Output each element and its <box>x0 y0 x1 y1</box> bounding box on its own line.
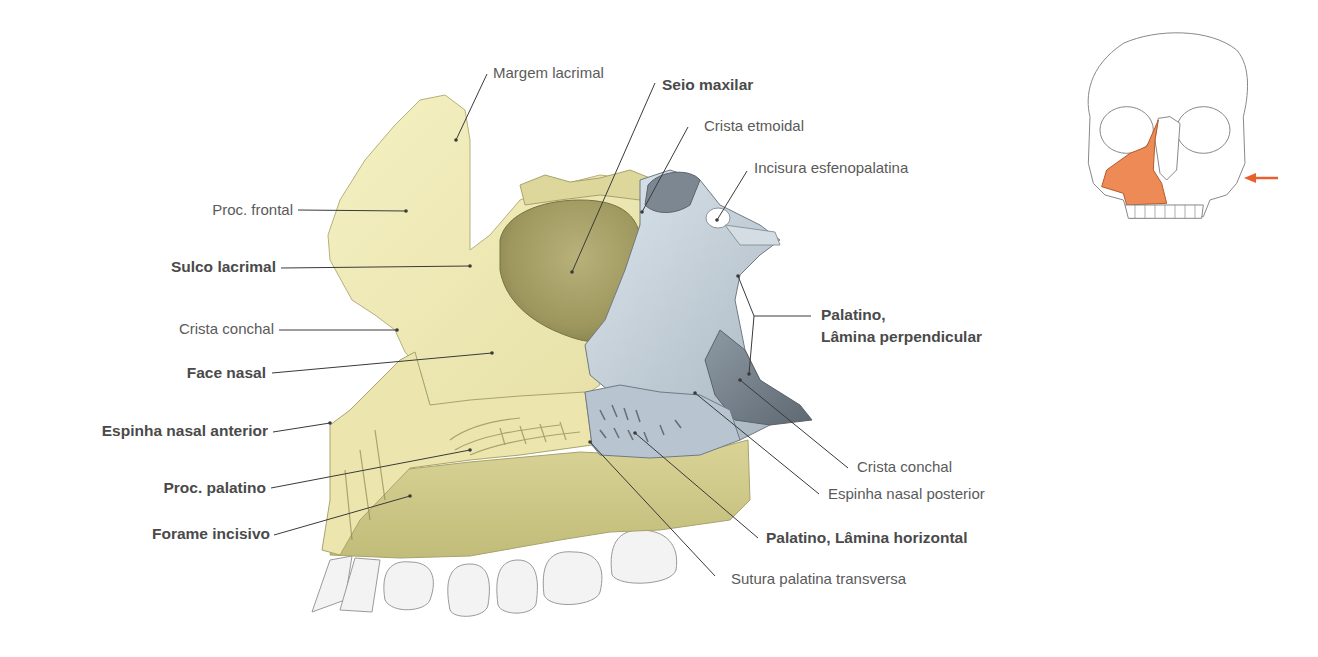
label-crista-conchal-right: Crista conchal <box>857 458 952 476</box>
label-line-1: Palatino, <box>821 306 982 324</box>
label-margem-lacrimal: Margem lacrimal <box>493 64 604 82</box>
label-espinha-nasal-posterior: Espinha nasal posterior <box>828 485 985 503</box>
label-line-2: Lâmina perpendicular <box>821 328 982 346</box>
label-espinha-nasal-anterior: Espinha nasal anterior <box>102 422 268 440</box>
label-sulco-lacrimal: Sulco lacrimal <box>171 258 276 276</box>
label-crista-etmoidal: Crista etmoidal <box>704 117 804 135</box>
label-sutura-palatina-transversa: Sutura palatina transversa <box>731 570 906 588</box>
anatomy-figure: Proc. frontal Sulco lacrimal Crista conc… <box>0 0 1318 657</box>
label-forame-incisivo: Forame incisivo <box>152 525 270 543</box>
label-crista-conchal-left: Crista conchal <box>179 320 274 338</box>
label-palatino-lamina-perpendicular: Palatino, Lâmina perpendicular <box>821 306 982 346</box>
label-proc-palatino: Proc. palatino <box>164 479 267 497</box>
label-proc-frontal: Proc. frontal <box>212 201 293 219</box>
skull-inset <box>1088 33 1247 219</box>
label-face-nasal: Face nasal <box>187 364 266 382</box>
label-incisura-esfenopalatina: Incisura esfenopalatina <box>754 159 908 177</box>
label-palatino-lamina-horizontal: Palatino, Lâmina horizontal <box>766 529 968 547</box>
arrow-left-icon <box>1244 173 1278 183</box>
label-seio-maxilar: Seio maxilar <box>662 76 753 94</box>
